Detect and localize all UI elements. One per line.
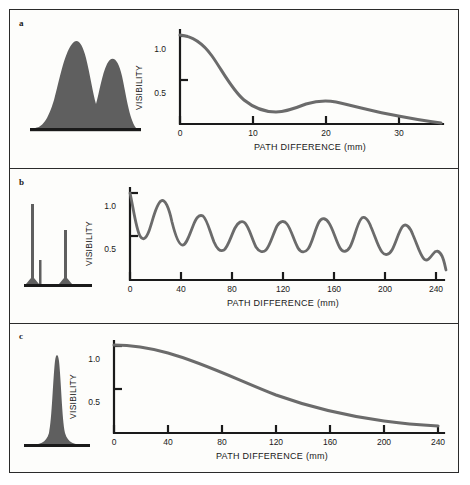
xtick-label-120-c: 120 bbox=[265, 437, 287, 447]
xtick-label-20-a: 20 bbox=[316, 128, 336, 138]
x-axis-title-c: PATH DIFFERENCE (mm) bbox=[162, 451, 382, 461]
figure-frame: a 1.0 0.5 0 bbox=[9, 9, 459, 473]
panel-label-c: c bbox=[19, 331, 23, 341]
xtick-label-200-b: 200 bbox=[374, 284, 396, 294]
x-axis-title-b: PATH DIFFERENCE (mm) bbox=[173, 298, 393, 308]
spectral-line-2-base-b bbox=[59, 278, 72, 284]
visibility-curve-c bbox=[114, 345, 438, 426]
chart-c: 1.0 0.5 0 40 80 120 160 200 240 VISIBILI… bbox=[92, 337, 448, 449]
axis-lines-a bbox=[180, 30, 443, 124]
y-axis-title-b: VISIBILITY bbox=[84, 221, 94, 266]
spectrum-baseline-b bbox=[24, 284, 92, 287]
spectrum-baseline-c bbox=[24, 444, 90, 447]
spectrum-inset-double-peak bbox=[28, 28, 143, 140]
panel-label-a: a bbox=[19, 18, 24, 28]
xtick-label-160-c: 160 bbox=[319, 437, 341, 447]
chart-b: 1.0 0.5 0 40 80 120 160 200 240 VISIBILI… bbox=[108, 184, 448, 296]
xtick-label-10-a: 10 bbox=[243, 128, 263, 138]
visibility-curve-b bbox=[130, 193, 446, 270]
xtick-label-240-c: 240 bbox=[427, 437, 449, 447]
xtick-label-40-b: 40 bbox=[171, 284, 191, 294]
xtick-label-80-c: 80 bbox=[212, 437, 232, 447]
y-axis-title-c: VISIBILITY bbox=[68, 374, 78, 419]
y-axis-title-a: VISIBILITY bbox=[134, 65, 144, 110]
ytick-label-1.0-b: 1.0 bbox=[90, 201, 116, 211]
axis-lines-c bbox=[114, 341, 444, 433]
xtick-label-0-c: 0 bbox=[104, 437, 124, 447]
spectrum-baseline-a bbox=[30, 128, 141, 131]
xtick-label-160-b: 160 bbox=[323, 284, 345, 294]
xtick-label-120-b: 120 bbox=[272, 284, 294, 294]
visibility-curve-a bbox=[180, 35, 441, 123]
ytick-label-1.0-c: 1.0 bbox=[74, 354, 100, 364]
xtick-label-240-b: 240 bbox=[425, 284, 447, 294]
xtick-label-0-b: 0 bbox=[120, 284, 140, 294]
chart-a: 1.0 0.5 0 10 20 30 VISIBILITY PATH DIFFE… bbox=[158, 24, 448, 142]
x-axis-title-a: PATH DIFFERENCE (mm) bbox=[200, 142, 420, 152]
xtick-label-0-a: 0 bbox=[170, 128, 190, 138]
panel-c: c 1.0 0.5 0 40 bbox=[10, 323, 458, 473]
spectral-line-1-base-b bbox=[26, 278, 39, 284]
panel-label-b: b bbox=[19, 177, 24, 187]
spectral-line-1-b bbox=[31, 204, 34, 284]
xtick-label-30-a: 30 bbox=[389, 128, 409, 138]
spectral-line-1-satellite-b bbox=[39, 260, 42, 284]
xtick-label-80-b: 80 bbox=[222, 284, 242, 294]
spectral-line-2-b bbox=[64, 230, 67, 284]
panel-a: a 1.0 0.5 0 bbox=[10, 10, 458, 168]
spectrum-curve-a bbox=[34, 41, 136, 128]
panel-b: b bbox=[10, 168, 458, 323]
xtick-label-40-c: 40 bbox=[158, 437, 178, 447]
axis-lines-b bbox=[130, 188, 444, 280]
ytick-label-1.0-a: 1.0 bbox=[140, 44, 166, 54]
xtick-label-200-c: 200 bbox=[373, 437, 395, 447]
